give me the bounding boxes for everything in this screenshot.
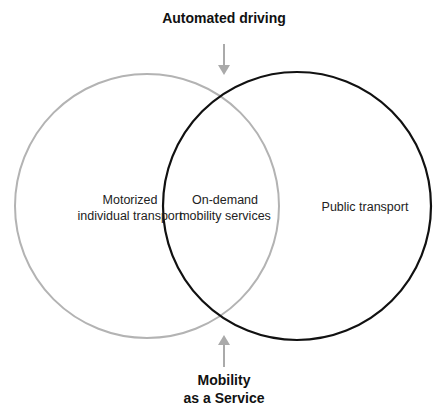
arrow-up-icon: [218, 335, 230, 367]
set-label-line-1: Public transport: [300, 199, 430, 215]
intersection-label-line-1: On-demand: [155, 192, 295, 208]
bottom-label-line-2: as a Service: [134, 389, 314, 407]
set-label-public-transport: Public transport: [300, 199, 430, 215]
bottom-label-line-1: Mobility: [134, 371, 314, 389]
intersection-label-on-demand-mobility-services: On-demand mobility services: [155, 192, 295, 224]
bottom-label-mobility-as-a-service: Mobility as a Service: [134, 371, 314, 407]
top-label-text: Automated driving: [124, 9, 324, 27]
arrow-down-icon: [218, 44, 230, 75]
intersection-label-line-2: mobility services: [155, 208, 295, 224]
top-label-automated-driving: Automated driving: [124, 9, 324, 27]
